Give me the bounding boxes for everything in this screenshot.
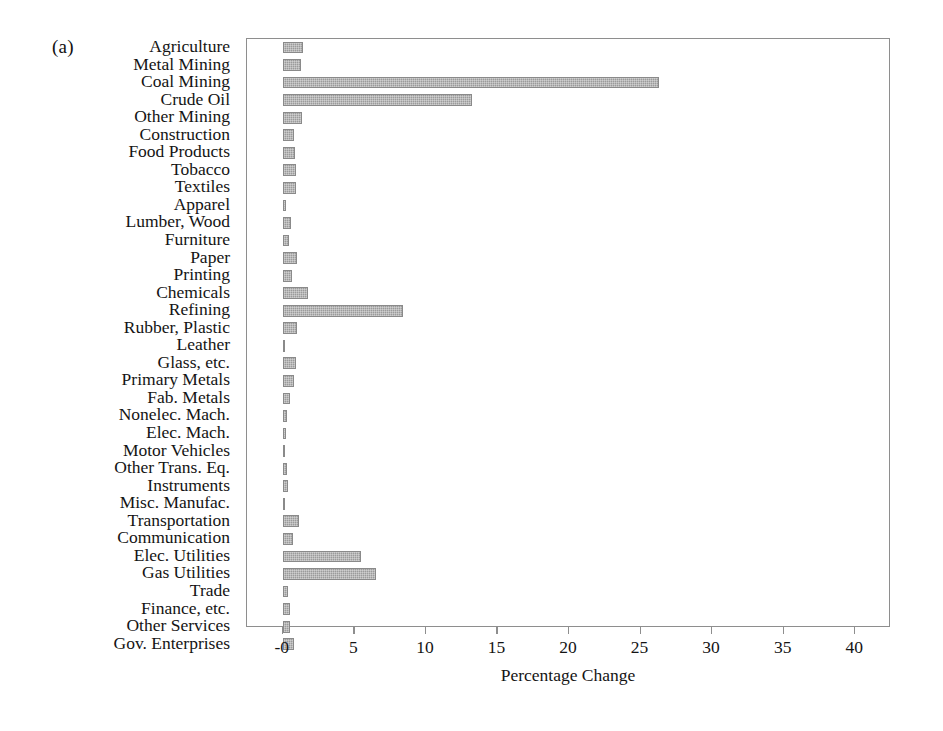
bar-row <box>247 74 891 92</box>
category-label: Coal Mining <box>60 73 230 91</box>
bar <box>283 287 308 299</box>
bar-row <box>247 320 891 338</box>
x-tick-mark <box>568 627 569 634</box>
x-tick-mark <box>783 627 784 634</box>
bar-row <box>247 179 891 197</box>
bar-row <box>247 215 891 233</box>
category-label: Furniture <box>60 231 230 249</box>
x-tick-label: 30 <box>702 637 720 658</box>
bar <box>283 182 297 194</box>
bar <box>283 252 297 264</box>
bar-row <box>247 530 891 548</box>
x-tick-label: 5 <box>349 637 358 658</box>
bar-row <box>247 285 891 303</box>
bar-row <box>247 127 891 145</box>
x-tick-label: 20 <box>559 637 577 658</box>
bar <box>283 305 403 317</box>
bar <box>283 428 287 440</box>
x-tick-mark <box>496 627 497 634</box>
bar <box>283 357 297 369</box>
bar <box>283 586 288 598</box>
bar <box>283 322 297 334</box>
bar <box>283 200 286 212</box>
bar-row <box>247 548 891 566</box>
bar <box>283 340 285 352</box>
category-label: Trade <box>60 582 230 600</box>
bar-row <box>247 425 891 443</box>
bar-row <box>247 232 891 250</box>
x-tick-label: 15 <box>488 637 506 658</box>
bar <box>283 59 302 71</box>
bar <box>283 393 290 405</box>
bar-row <box>247 478 891 496</box>
bar <box>283 217 292 229</box>
bar-row <box>247 162 891 180</box>
bar-row <box>247 92 891 110</box>
x-tick-mark <box>854 627 855 634</box>
bar <box>283 498 285 510</box>
bar-row <box>247 408 891 426</box>
bar-row <box>247 390 891 408</box>
category-label: Other Services <box>60 617 230 635</box>
bar-row <box>247 109 891 127</box>
x-tick-mark <box>353 627 354 634</box>
x-tick-label: -0 <box>274 637 289 658</box>
bar-row <box>247 460 891 478</box>
bar <box>283 410 287 422</box>
bar <box>283 94 472 106</box>
bar-row <box>247 302 891 320</box>
bar-row <box>247 250 891 268</box>
category-label: Elec. Mach. <box>60 424 230 442</box>
bar <box>283 603 290 615</box>
bar-row <box>247 513 891 531</box>
bar-row <box>247 57 891 75</box>
x-tick-mark <box>711 627 712 634</box>
bar-series <box>247 39 889 626</box>
x-tick-mark <box>640 627 641 634</box>
bar-row <box>247 355 891 373</box>
x-tick-mark <box>282 627 283 634</box>
category-axis-labels: AgricultureMetal MiningCoal MiningCrude … <box>60 38 230 652</box>
bar-row <box>247 39 891 57</box>
value-axis: -0510152025303540 <box>246 627 890 667</box>
bar <box>283 270 292 282</box>
bar-row <box>247 267 891 285</box>
plot-area <box>246 38 890 627</box>
bar-row <box>247 197 891 215</box>
bar <box>283 551 362 563</box>
bar-row <box>247 601 891 619</box>
bar-row <box>247 337 891 355</box>
bar <box>283 480 288 492</box>
x-axis-title: Percentage Change <box>246 665 890 686</box>
bar-row <box>247 583 891 601</box>
bar <box>283 515 299 527</box>
bar-row <box>247 495 891 513</box>
bar <box>283 533 293 545</box>
x-tick-mark <box>425 627 426 634</box>
bar-row <box>247 372 891 390</box>
bar <box>283 77 659 89</box>
bar <box>283 147 295 159</box>
x-tick-label: 10 <box>416 637 434 658</box>
category-label: Gov. Enterprises <box>60 635 230 653</box>
x-tick-label: 40 <box>845 637 863 658</box>
bar-row <box>247 144 891 162</box>
category-label: Agriculture <box>60 38 230 56</box>
bar <box>283 463 287 475</box>
bar <box>283 375 294 387</box>
bar <box>283 235 289 247</box>
bar-row <box>247 443 891 461</box>
x-tick-label: 25 <box>631 637 649 658</box>
bar <box>283 164 297 176</box>
x-tick-label: 35 <box>774 637 792 658</box>
bar <box>283 568 376 580</box>
bar <box>283 445 285 457</box>
bar <box>283 129 294 141</box>
figure-panel-a: (a) AgricultureMetal MiningCoal MiningCr… <box>0 0 943 731</box>
bar <box>283 112 302 124</box>
bar <box>283 42 303 54</box>
bar-row <box>247 566 891 584</box>
